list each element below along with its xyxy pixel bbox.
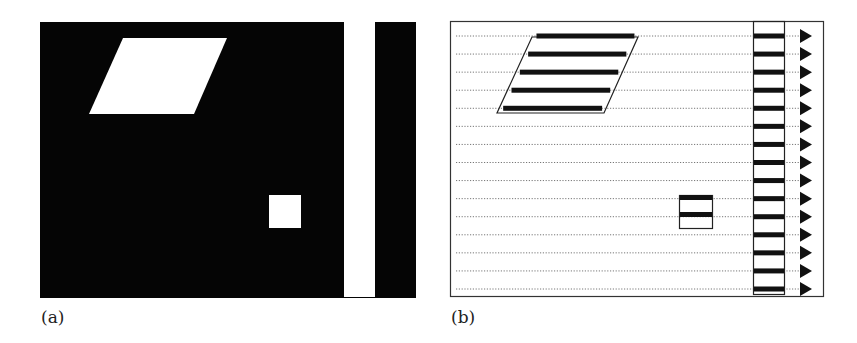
parallelogram-runs	[503, 34, 634, 111]
scan-lines	[456, 36, 800, 289]
arrow-right-icon	[800, 264, 812, 278]
panel-a-label: (a)	[41, 307, 64, 327]
panel-a	[40, 22, 416, 298]
arrow-right-icon	[800, 65, 812, 79]
panel-b-label: (b)	[451, 307, 475, 327]
square-run	[680, 212, 712, 217]
parallelogram-run	[511, 88, 610, 93]
bar-run	[754, 106, 784, 111]
arrow-right-icon	[800, 137, 812, 151]
bar-run	[754, 287, 784, 292]
arrow-right-icon	[800, 174, 812, 188]
bar-run	[754, 214, 784, 219]
bar-run	[754, 142, 784, 147]
white-square	[269, 195, 301, 228]
bar-run	[754, 232, 784, 237]
arrow-right-icon	[800, 192, 812, 206]
bar-run	[754, 160, 784, 165]
parallelogram-run	[536, 34, 634, 39]
square-runs	[680, 195, 712, 217]
parallelogram-run	[503, 106, 602, 111]
bar-run	[754, 250, 784, 255]
arrow-right-icon	[800, 210, 812, 224]
arrow-right-icon	[800, 47, 812, 61]
bar-run	[754, 34, 784, 39]
bar-run	[754, 70, 784, 75]
panel-b	[451, 22, 824, 297]
parallelogram-run	[520, 70, 618, 75]
white-vertical-bar	[344, 22, 375, 297]
bar-run	[754, 124, 784, 129]
arrow-right-icon	[800, 246, 812, 260]
figure-canvas	[0, 0, 857, 343]
parallelogram-run	[528, 52, 626, 57]
arrow-right-icon	[800, 156, 812, 170]
arrow-right-icon	[800, 119, 812, 133]
bar-run	[754, 52, 784, 57]
bar-run	[754, 268, 784, 273]
parallelogram-outline	[497, 37, 638, 113]
scan-arrows	[800, 29, 812, 296]
arrow-right-icon	[800, 83, 812, 97]
arrow-right-icon	[800, 282, 812, 296]
bar-runs	[754, 34, 784, 292]
arrow-right-icon	[800, 101, 812, 115]
arrow-right-icon	[800, 228, 812, 242]
square-run	[680, 195, 712, 200]
arrow-right-icon	[800, 29, 812, 43]
bar-run	[754, 196, 784, 201]
bar-run	[754, 178, 784, 183]
bar-run	[754, 88, 784, 93]
